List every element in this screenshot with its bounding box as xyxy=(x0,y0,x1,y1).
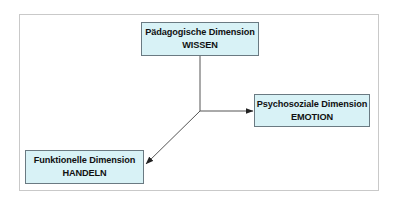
node-title: Funktionelle Dimension xyxy=(34,154,135,167)
node-title: Pädagogische Dimension xyxy=(145,26,255,39)
node-psychosoziale-dimension: Psychosoziale Dimension EMOTION xyxy=(254,94,370,127)
node-subtitle: HANDELN xyxy=(62,167,106,180)
node-subtitle: WISSEN xyxy=(182,39,218,52)
node-funktionelle-dimension: Funktionelle Dimension HANDELN xyxy=(25,150,144,184)
node-subtitle: EMOTION xyxy=(291,111,333,124)
node-title: Psychosoziale Dimension xyxy=(257,98,368,111)
node-paedagogische-dimension: Pädagogische Dimension WISSEN xyxy=(141,22,259,56)
